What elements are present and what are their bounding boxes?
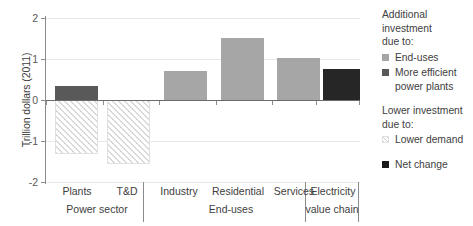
x-tick-2 bbox=[159, 101, 160, 105]
legend-label-power-plants-line2: power plants bbox=[395, 81, 453, 92]
plot-area bbox=[46, 18, 360, 182]
bar-services-end-uses bbox=[277, 58, 320, 100]
bar-plants-lower-demand bbox=[55, 100, 98, 154]
legend-item-end-uses: End-uses bbox=[382, 51, 473, 65]
bar-plants-power-plants bbox=[55, 86, 98, 100]
y-tick-label-0: 0 bbox=[12, 94, 38, 106]
legend-heading-additional-line1: Additional investment bbox=[382, 9, 432, 34]
x-label-electricity-value-chain-line1: Electricity bbox=[308, 185, 358, 197]
chart-legend: Additional investment due to: End-uses M… bbox=[382, 8, 473, 173]
legend-item-net-change: Net change bbox=[382, 158, 473, 172]
y-tick-label-neg2: -2 bbox=[12, 176, 38, 188]
x-tick-0 bbox=[46, 101, 47, 105]
legend-heading-lower-line2: due to: bbox=[382, 119, 414, 130]
legend-swatch-power-plants-icon bbox=[382, 69, 389, 76]
bar-chart: Trillion dollars (2011) 2 1 0 -1 -2 bbox=[0, 0, 473, 226]
category-axis-band: Plants T&D Industry Residential Services… bbox=[46, 185, 360, 225]
x-tick-6 bbox=[359, 101, 360, 105]
legend-label-net-change: Net change bbox=[395, 159, 448, 170]
x-label-electricity-value-chain-line2: value chain bbox=[305, 203, 359, 215]
legend-swatch-end-uses-icon bbox=[382, 54, 389, 61]
group-label-end-uses: End-uses bbox=[176, 203, 286, 215]
group-separator-3 bbox=[358, 182, 359, 222]
zero-axis-line bbox=[46, 100, 360, 101]
y-tick-label-1: 1 bbox=[12, 53, 38, 65]
legend-label-lower-demand: Lower demand bbox=[395, 134, 463, 145]
bar-td-lower-demand bbox=[107, 100, 150, 164]
y-tick-label-neg1: -1 bbox=[12, 135, 38, 147]
legend-item-lower-demand: Lower demand bbox=[382, 133, 473, 147]
legend-item-power-plants: More efficient power plants bbox=[382, 66, 473, 93]
legend-spacer bbox=[382, 95, 473, 104]
gridline-2 bbox=[46, 18, 360, 19]
x-tick-1 bbox=[103, 101, 104, 105]
x-label-plants: Plants bbox=[50, 185, 104, 197]
bar-industry-end-uses bbox=[164, 71, 207, 100]
x-label-residential: Residential bbox=[207, 185, 269, 197]
bar-electricity-value-chain-net-change bbox=[323, 69, 360, 100]
y-tick-label-2: 2 bbox=[12, 12, 38, 24]
group-label-power-sector: Power sector bbox=[56, 203, 138, 215]
x-tick-5 bbox=[316, 101, 317, 105]
legend-heading-lower: Lower investment due to: bbox=[382, 104, 473, 131]
gridline-neg2 bbox=[46, 182, 360, 183]
x-label-industry: Industry bbox=[150, 185, 208, 197]
legend-label-power-plants-line1: More efficient bbox=[395, 67, 457, 78]
legend-heading-additional: Additional investment due to: bbox=[382, 8, 473, 49]
legend-swatch-lower-demand-icon bbox=[382, 136, 389, 143]
legend-heading-additional-line2: due to: bbox=[382, 36, 414, 47]
bar-residential-end-uses bbox=[221, 38, 264, 100]
legend-label-end-uses: End-uses bbox=[395, 52, 439, 63]
legend-spacer-2 bbox=[382, 149, 473, 158]
legend-swatch-net-change-icon bbox=[382, 161, 389, 168]
x-tick-4 bbox=[272, 101, 273, 105]
x-tick-3 bbox=[216, 101, 217, 105]
x-label-td: T&D bbox=[104, 185, 150, 197]
legend-heading-lower-line1: Lower investment bbox=[382, 105, 463, 116]
cropped-title bbox=[150, 0, 330, 5]
